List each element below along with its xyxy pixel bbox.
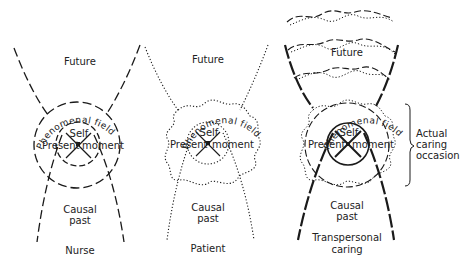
causal-label: Causal xyxy=(188,202,228,213)
past-label: past xyxy=(60,215,100,226)
present-label: Present xyxy=(42,140,78,151)
future-cone-right xyxy=(240,45,268,110)
future-label: Future xyxy=(188,54,228,65)
future-cone-left xyxy=(145,47,178,110)
future-label: Future xyxy=(327,47,367,58)
bracket-label-line2: caring xyxy=(416,139,447,150)
moment-label: moment xyxy=(212,139,252,150)
future-cone-right xyxy=(106,45,140,115)
causal-label: Causal xyxy=(60,204,100,215)
past-cone-left xyxy=(37,135,62,242)
self-label: Self xyxy=(334,127,364,138)
bracket-label-line1: Actual xyxy=(416,128,447,139)
panel-caption: Nurse xyxy=(56,245,104,256)
future-cone-left xyxy=(285,45,313,108)
future-label: Future xyxy=(60,56,100,67)
panel-caption: Patient xyxy=(184,243,232,254)
present-label: Present xyxy=(308,139,344,150)
present-label: Present xyxy=(170,139,206,150)
caring-occasion-bracket xyxy=(405,104,414,186)
panel-caption-line1: Transpersonal xyxy=(312,232,382,243)
future-wave-bands xyxy=(287,11,395,78)
past-label: past xyxy=(188,213,228,224)
moment-label: moment xyxy=(82,140,122,151)
self-label: Self xyxy=(64,128,94,139)
causal-label: Causal xyxy=(327,200,367,211)
self-label: Self xyxy=(194,127,224,138)
panel-caption-line2: caring xyxy=(312,244,382,255)
future-cone-left xyxy=(14,48,48,115)
moment-label: moment xyxy=(352,139,392,150)
bracket-label-line3: occasion xyxy=(416,150,460,161)
past-label: past xyxy=(327,211,367,222)
present-point-marker xyxy=(346,142,350,146)
